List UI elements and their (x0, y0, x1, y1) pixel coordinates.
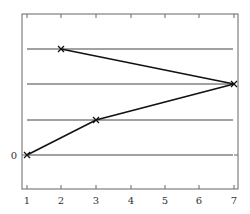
y-tick-label-0: 0 (11, 150, 17, 161)
x-tick-label-6: 6 (196, 195, 202, 206)
x-tick-label-7: 7 (231, 195, 237, 206)
x-axis-ticks (27, 185, 234, 189)
data-line (27, 49, 234, 155)
x-tick-label-2: 2 (58, 195, 64, 206)
x-tick-label-4: 4 (128, 195, 134, 206)
chart-svg: 0 1 2 3 4 5 6 7 (0, 0, 250, 214)
chart: 0 1 2 3 4 5 6 7 (0, 0, 250, 214)
x-tick-label-1: 1 (24, 195, 30, 206)
plot-frame (22, 14, 238, 189)
x-tick-label-3: 3 (93, 195, 99, 206)
x-tick-label-5: 5 (162, 195, 168, 206)
x-axis-top-ticks (27, 14, 234, 18)
